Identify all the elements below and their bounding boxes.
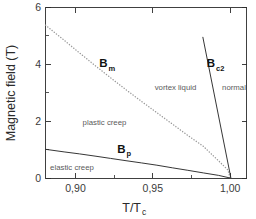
boundary-label-bp-subscript: p — [127, 149, 132, 158]
y-axis-title-text: Magnetic field (T) — [4, 45, 18, 142]
region-label-elastic-creep: elastic creep — [50, 163, 94, 172]
x-tick-labels: 0,90 0,95 1,00 — [65, 182, 240, 194]
y-tick-label-4: 4 — [35, 58, 41, 70]
y-tick-labels: 0 2 4 6 — [35, 1, 41, 184]
y-tick-label-2: 2 — [35, 115, 41, 127]
region-label-normal: normal — [222, 83, 246, 92]
x-tick-label-090: 0,90 — [65, 182, 86, 194]
region-label-plastic-creep: plastic creep — [83, 118, 127, 127]
x-axis-title: T/T c — [122, 201, 147, 217]
x-tick-label-095: 0,95 — [143, 182, 164, 194]
region-annotations: plastic creep vortex liquid normal elast… — [50, 83, 246, 172]
plot-frame — [46, 8, 247, 179]
x-tick-label-100: 1,00 — [220, 182, 241, 194]
boundary-label-bm-subscript: m — [109, 64, 116, 73]
y-axis-ticks — [46, 8, 247, 179]
boundary-label-bc2-subscript: c2 — [216, 64, 224, 73]
phase-diagram-figure: 0 2 4 6 0,90 0,95 1,00 Magnetic field (T… — [0, 0, 256, 219]
y-tick-label-0: 0 — [35, 172, 41, 184]
boundary-labels: B m B c2 B p — [99, 57, 224, 158]
region-label-vortex-liquid: vortex liquid — [155, 83, 197, 92]
x-axis-title-subscript: c — [142, 207, 147, 217]
chart-canvas: 0 2 4 6 0,90 0,95 1,00 Magnetic field (T… — [0, 0, 256, 219]
x-axis-title-text: T/T — [122, 201, 141, 215]
x-axis-ticks — [76, 8, 231, 179]
y-axis-title: Magnetic field (T) — [4, 45, 18, 142]
data-curves — [46, 25, 231, 178]
boundary-label-bm: B — [99, 57, 107, 69]
boundary-label-bc2: B — [207, 57, 215, 69]
y-tick-label-6: 6 — [35, 1, 41, 13]
curve-bm — [46, 25, 231, 178]
boundary-label-bp: B — [117, 143, 125, 155]
